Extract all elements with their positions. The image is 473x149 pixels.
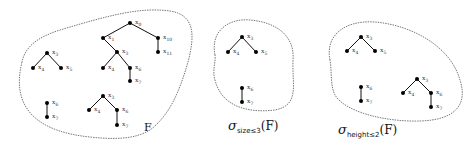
tree-node — [87, 108, 91, 112]
node-label: x7 — [436, 102, 442, 111]
node-label: x7 — [52, 112, 58, 121]
tree-node — [45, 101, 49, 105]
tree-edge — [130, 23, 158, 38]
tree-node — [156, 50, 160, 54]
tree-node — [359, 35, 363, 39]
node-label: x0 — [135, 18, 141, 27]
node-label: x7 — [135, 76, 141, 85]
node-label: x7 — [247, 97, 253, 106]
caption-sigma: σheight≤2(F) — [338, 122, 397, 139]
node-label: x6 — [247, 83, 253, 92]
tree-node — [115, 123, 119, 127]
tree-node — [401, 91, 405, 95]
node-label: x11 — [163, 47, 172, 56]
tree-edge — [103, 96, 117, 110]
node-label: x10 — [163, 33, 172, 42]
node-label: x4 — [108, 63, 114, 72]
node-label: x5 — [261, 47, 267, 56]
tree-node — [359, 85, 363, 89]
tree-node — [59, 66, 63, 70]
node-label: x3 — [122, 47, 128, 56]
tree-edge — [242, 37, 256, 52]
tree-node — [101, 66, 105, 70]
node-label: x6 — [122, 105, 128, 114]
tree-node — [128, 21, 132, 25]
tree-edge — [47, 53, 61, 68]
node-label: x4 — [94, 105, 100, 114]
node-label: x6 — [436, 88, 442, 97]
tree-node — [115, 50, 119, 54]
set-boundary — [214, 20, 294, 111]
panel-height: x3x4x5x6x7x3x4x6x7σheight≤2(F) — [329, 22, 462, 139]
set-boundary — [19, 10, 192, 138]
node-label: x7 — [366, 96, 372, 105]
tree-node — [429, 91, 433, 95]
tree-node — [240, 35, 244, 39]
node-label: x7 — [122, 120, 128, 129]
node-label: x3 — [247, 32, 253, 41]
panel-size: x3x4x5x6x7σsize≤3(F) — [214, 20, 294, 135]
node-label: x6 — [366, 82, 372, 91]
node-label: x3 — [366, 32, 372, 41]
tree-node — [45, 51, 49, 55]
tree-node — [115, 108, 119, 112]
node-label: x6 — [135, 63, 141, 72]
node-label: x5 — [66, 63, 72, 72]
set-boundary — [329, 22, 462, 121]
node-label: x1 — [108, 33, 114, 42]
caption-sigma: σsize≤3(F) — [228, 118, 278, 135]
tree-node — [226, 50, 230, 54]
tree-node — [415, 77, 419, 81]
tree-node — [156, 36, 160, 40]
node-label: x5 — [380, 46, 386, 55]
tree-node — [373, 49, 377, 53]
tree-node — [254, 50, 258, 54]
forest-diagram: x0x1x10x11x3x4x6x7x3x4x5x6x7x3x4x6x7Fx3x… — [0, 0, 473, 149]
node-label: x3 — [52, 48, 58, 57]
tree-node — [345, 49, 349, 53]
tree-node — [31, 66, 35, 70]
tree-node — [45, 115, 49, 119]
tree-node — [101, 36, 105, 40]
tree-edge — [417, 79, 431, 93]
tree-node — [101, 94, 105, 98]
tree-edge — [103, 38, 117, 52]
panel-F: x0x1x10x11x3x4x6x7x3x4x5x6x7x3x4x6x7F — [19, 10, 192, 138]
tree-node — [429, 105, 433, 109]
tree-node — [240, 100, 244, 104]
node-label: x4 — [233, 47, 239, 56]
node-label: x4 — [352, 46, 358, 55]
tree-edge — [361, 37, 375, 51]
caption-F: F — [144, 121, 152, 134]
tree-node — [240, 86, 244, 90]
node-label: x4 — [38, 63, 44, 72]
tree-node — [128, 79, 132, 83]
node-label: x4 — [408, 88, 414, 97]
tree-node — [359, 99, 363, 103]
node-label: x3 — [422, 74, 428, 83]
node-label: x6 — [52, 98, 58, 107]
node-label: x3 — [108, 91, 114, 100]
tree-node — [128, 66, 132, 70]
